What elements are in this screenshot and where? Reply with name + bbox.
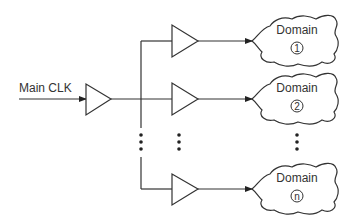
domain-index-2: 2 <box>294 101 300 112</box>
branch-buffer-n <box>172 174 198 205</box>
domain-index-n: n <box>294 191 300 202</box>
diagram-canvas: Main CLK Domain 1 Domain 2 <box>0 0 355 221</box>
branch-buffer-1 <box>172 25 198 57</box>
branch-2: Domain 2 <box>172 73 338 124</box>
main-clk-label: Main CLK <box>19 81 72 95</box>
domain-ellipsis <box>295 133 299 151</box>
branch-n: Domain n <box>141 163 338 214</box>
domain-label-1: Domain <box>276 23 317 37</box>
domain-index-1: 1 <box>294 43 300 54</box>
buffer-ellipsis <box>177 133 181 151</box>
branch-buffer-2 <box>172 83 198 115</box>
main-buffer <box>86 84 111 115</box>
trunk-ellipsis <box>139 133 143 151</box>
clock-tree-diagram: Main CLK Domain 1 Domain 2 <box>0 0 355 221</box>
domain-label-n: Domain <box>276 171 317 185</box>
branch-1: Domain 1 <box>141 15 338 66</box>
domain-label-2: Domain <box>276 81 317 95</box>
